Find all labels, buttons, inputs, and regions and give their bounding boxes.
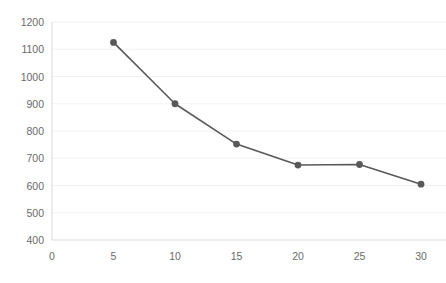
- data-series-line: [114, 42, 422, 184]
- data-point-marker: [110, 39, 117, 46]
- chart-container: 400500600700800900100011001200 051015202…: [0, 0, 446, 283]
- x-axis-tick-label: 5: [111, 251, 117, 262]
- y-axis-tick-label: 600: [26, 180, 44, 191]
- y-axis-tick-label: 1200: [21, 17, 44, 28]
- data-point-marker: [295, 162, 302, 169]
- data-point-markers: [110, 39, 424, 188]
- data-point-marker: [172, 100, 179, 107]
- data-point-marker: [418, 181, 425, 188]
- y-axis-tick-label: 400: [26, 235, 44, 246]
- y-axis-tick-label: 1100: [21, 44, 44, 55]
- chart-plot-area: [0, 0, 446, 283]
- data-point-marker: [233, 141, 240, 148]
- x-axis-tick-label: 25: [354, 251, 366, 262]
- y-axis-tick-label: 800: [26, 126, 44, 137]
- y-axis-tick-label: 500: [26, 208, 44, 219]
- y-axis-tick-label: 900: [26, 99, 44, 110]
- x-axis-tick-label: 20: [292, 251, 304, 262]
- data-point-marker: [356, 161, 363, 168]
- series-line-0: [114, 42, 422, 184]
- x-axis-tick-label: 0: [49, 251, 55, 262]
- y-axis-tick-label: 700: [26, 153, 44, 164]
- gridlines: [52, 22, 446, 213]
- x-axis-tick-label: 15: [231, 251, 243, 262]
- x-axis-tick-label: 30: [415, 251, 427, 262]
- y-axis-tick-label: 1000: [21, 71, 44, 82]
- x-axis-tick-label: 10: [169, 251, 181, 262]
